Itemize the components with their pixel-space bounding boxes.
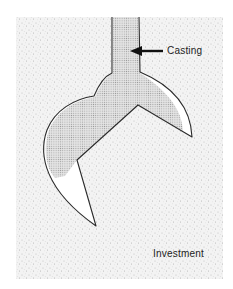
investment-casting-diagram — [0, 0, 233, 289]
investment-label: Investment — [153, 248, 204, 259]
casting-label: Casting — [167, 45, 202, 56]
